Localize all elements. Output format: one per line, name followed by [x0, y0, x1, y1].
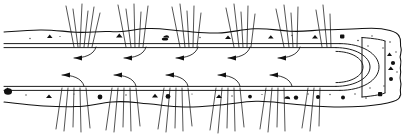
pebble	[248, 95, 252, 99]
direction-arrow	[218, 72, 240, 86]
direction-arrow	[114, 72, 136, 86]
grass-tuft	[64, 88, 68, 131]
speck	[365, 97, 367, 99]
speck	[125, 94, 126, 95]
direction-arrow	[124, 47, 146, 61]
pebble	[163, 35, 169, 37]
loop-rail-inner	[336, 48, 370, 87]
grass-tuft	[302, 88, 308, 128]
grass-tufts-lower	[56, 88, 320, 133]
grass-tuft	[56, 88, 62, 129]
grass-tuft	[80, 4, 82, 47]
pebble	[389, 77, 393, 81]
loop-head-outer-curve	[362, 38, 385, 42]
grass-tuft	[330, 14, 331, 47]
loop-rail-outer	[340, 44, 379, 91]
grass-tuft	[247, 6, 248, 47]
grass-tuft	[240, 88, 244, 127]
speck	[382, 47, 383, 48]
pebble	[284, 96, 290, 99]
speck	[369, 87, 370, 88]
pebble	[4, 88, 12, 94]
pebble	[391, 61, 395, 65]
terrain-group	[4, 28, 401, 107]
grass-tuft	[284, 5, 289, 47]
arrow-curve	[114, 75, 136, 86]
terrain-top-outline	[4, 28, 399, 36]
speck	[307, 93, 308, 94]
grass-tuft	[134, 4, 135, 47]
arrow-curve	[62, 75, 84, 86]
speck	[354, 93, 355, 94]
direction-arrow	[74, 47, 96, 61]
speck	[367, 45, 368, 46]
grass-tuft	[227, 88, 228, 128]
pebble	[316, 95, 320, 99]
grass-tuft	[106, 88, 112, 130]
grass-tuft	[180, 4, 185, 47]
grass-tuft	[260, 88, 266, 129]
arrow-curve	[124, 47, 146, 58]
grass-tuft	[158, 88, 164, 129]
speck	[73, 93, 74, 94]
direction-arrow	[278, 47, 300, 61]
speck	[261, 94, 262, 95]
grass-tuft	[187, 11, 189, 47]
grass-tuft	[234, 88, 235, 131]
grass-tuft	[310, 88, 314, 131]
grass-tuft	[268, 88, 272, 132]
direction-arrow	[62, 72, 84, 86]
grass-tuft	[123, 88, 124, 127]
direction-arrow	[270, 72, 292, 86]
pebble	[312, 35, 318, 39]
grass-tuft-group	[56, 4, 331, 133]
grass-tuft	[182, 88, 183, 131]
arrow-head	[278, 55, 286, 60]
grass-tuft	[73, 9, 78, 47]
arrow-head	[62, 72, 70, 77]
speck	[389, 41, 391, 43]
grass-tuft	[284, 88, 285, 131]
speck	[396, 71, 397, 72]
arrow-head	[74, 55, 82, 60]
speck	[199, 37, 200, 38]
speck	[357, 40, 359, 42]
grass-tuft	[291, 13, 293, 47]
arrow-head	[166, 72, 174, 77]
pebble	[340, 35, 344, 39]
speck	[291, 35, 292, 36]
track-group	[4, 38, 385, 98]
pebble	[387, 53, 392, 56]
grass-tuft	[175, 88, 176, 128]
arrow-curve	[218, 75, 240, 86]
direction-arrow	[228, 47, 250, 61]
grass-tuft	[226, 8, 234, 47]
grass-tuft	[218, 88, 222, 133]
grass-tuft	[84, 11, 88, 47]
grass-tuft	[86, 88, 90, 128]
pebble	[116, 34, 123, 38]
grass-tuft	[316, 10, 322, 47]
grass-tufts-upper	[66, 4, 331, 47]
pebble	[166, 94, 171, 99]
grass-tuft	[136, 88, 140, 126]
arrow-head	[270, 72, 278, 77]
grass-tuft	[114, 88, 118, 132]
grass-tuft	[80, 88, 81, 132]
speck	[383, 85, 384, 86]
direction-arrow-group	[62, 47, 300, 86]
direction-arrow	[176, 47, 198, 61]
arrow-curve	[176, 47, 198, 58]
arrow-curve	[278, 47, 300, 58]
arrow-head	[218, 72, 226, 77]
grass-tuft	[323, 5, 327, 47]
arrow-head	[176, 55, 184, 60]
pebble	[225, 35, 231, 39]
arrow-head	[114, 72, 122, 77]
arrow-head	[124, 55, 132, 60]
grass-tuft	[197, 13, 201, 47]
arrow-curve	[166, 75, 188, 86]
grass-tuft	[251, 14, 255, 47]
grass-tuft	[276, 9, 284, 47]
grass-tuft	[92, 13, 100, 47]
